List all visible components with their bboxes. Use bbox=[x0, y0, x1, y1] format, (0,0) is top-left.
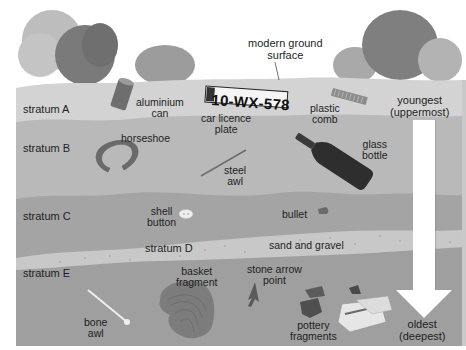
bullet-label: bullet bbox=[282, 209, 307, 220]
plastic-comb-label: plastic comb bbox=[310, 103, 340, 125]
stratum-c-label: stratum C bbox=[23, 210, 71, 222]
sand-gravel-label: sand and gravel bbox=[269, 240, 344, 251]
vegetation-left bbox=[18, 10, 195, 85]
aluminium-can-label: aluminium can bbox=[136, 97, 184, 119]
oldest-label: oldest (deepest) bbox=[399, 318, 445, 342]
youngest-label: youngest (uppermost) bbox=[390, 94, 449, 118]
bone-awl-label: bone awl bbox=[84, 317, 107, 339]
vegetation-right bbox=[333, 10, 462, 83]
pottery-fragments-label: pottery fragments bbox=[290, 320, 337, 342]
stratigraphy-diagram: modern ground surface stratum A stratum … bbox=[0, 0, 466, 350]
surface-pointer bbox=[275, 62, 279, 80]
stone-arrow-point-label: stone arrow point bbox=[247, 264, 302, 286]
stratum-d-label: stratum D bbox=[145, 242, 193, 254]
stratum-a-label: stratum A bbox=[23, 103, 69, 115]
horseshoe-label: horseshoe bbox=[121, 133, 170, 144]
shell-button-icon bbox=[179, 210, 193, 219]
stratum-e-label: stratum E bbox=[23, 267, 70, 279]
stratum-b-label: stratum B bbox=[23, 142, 70, 154]
glass-bottle-label: glass bottle bbox=[362, 139, 388, 161]
shell-button-label: shell button bbox=[147, 206, 176, 228]
surface-label: modern ground surface bbox=[248, 37, 323, 61]
basket-fragment-label: basket fragment bbox=[176, 266, 217, 288]
steel-awl-label: steel awl bbox=[224, 165, 246, 187]
licence-plate-label: car licence plate bbox=[201, 113, 251, 135]
